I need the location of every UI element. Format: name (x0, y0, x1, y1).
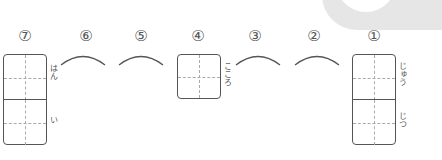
answer-box-7[interactable] (3, 54, 47, 145)
furigana-7-bottom: い (48, 116, 57, 124)
question-number-3: ③ (245, 27, 265, 45)
score-tab: / 7 (322, 0, 442, 30)
furigana-7-top: はん (48, 64, 57, 80)
answer-arc-2[interactable] (294, 52, 340, 66)
answer-arc-6[interactable] (60, 52, 106, 66)
question-number-4: ④ (188, 27, 208, 45)
answer-cell-7b[interactable] (4, 100, 46, 145)
question-number-6: ⑥ (76, 27, 96, 45)
answer-arc-5[interactable] (118, 52, 164, 66)
answer-cell-1b[interactable] (353, 100, 395, 145)
furigana-1-top: じゅう (397, 62, 406, 86)
answer-arc-3[interactable] (235, 52, 281, 66)
answer-box-1[interactable] (352, 54, 396, 145)
answer-cell-4[interactable] (178, 55, 220, 98)
question-number-5: ⑤ (131, 27, 151, 45)
answer-cell-1a[interactable] (353, 55, 395, 100)
answer-cell-7a[interactable] (4, 55, 46, 100)
furigana-1-bottom: じつ (397, 112, 406, 128)
answer-box-4[interactable] (177, 54, 221, 99)
question-number-1: ① (364, 27, 384, 45)
furigana-4: こころ (222, 62, 231, 86)
question-number-7: ⑦ (15, 27, 35, 45)
question-number-2: ② (304, 27, 324, 45)
